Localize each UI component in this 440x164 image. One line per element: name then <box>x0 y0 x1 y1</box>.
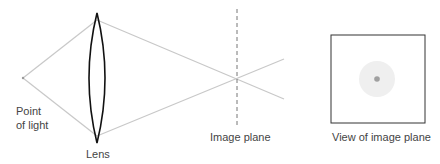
lens-shape <box>89 13 105 143</box>
focus-dot <box>374 76 380 82</box>
point-of-light-label-line2: of light <box>16 118 48 132</box>
point-of-light-label: Point of light <box>16 104 48 132</box>
image-plane-label: Image plane <box>210 130 271 144</box>
point-of-light <box>22 77 24 79</box>
point-of-light-label-line1: Point <box>16 104 48 118</box>
light-rays <box>23 20 284 136</box>
lens-label: Lens <box>86 147 110 161</box>
view-of-image-plane-label: View of image plane <box>332 130 431 144</box>
